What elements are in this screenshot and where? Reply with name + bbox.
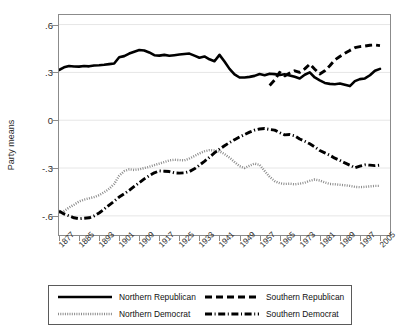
series-line-northern-democrat (59, 150, 380, 213)
legend-item-southern-democrat: Southern Democrat (200, 309, 347, 319)
y-axis-title-text: Party means (6, 120, 16, 171)
series-line-northern-republican (59, 50, 380, 86)
legend-item-northern-democrat: Northern Democrat (53, 309, 200, 319)
legend-label-southern-republican: Southern Republican (266, 292, 344, 302)
legend-label-northern-democrat: Northern Democrat (119, 309, 190, 319)
legend-swatch-dotted (57, 309, 113, 319)
legend-swatch-dashed (204, 292, 260, 302)
plot-svg (59, 15, 390, 235)
chart-figure: Party means .6.30-.3-.6 1877188518931901… (0, 0, 399, 332)
series-line-southern-democrat (59, 129, 380, 219)
plot-area (58, 14, 391, 236)
y-tick-label: -.6 (27, 210, 53, 221)
legend-swatch-solid (57, 292, 113, 302)
legend-item-southern-republican: Southern Republican (200, 292, 347, 302)
y-tick-label: -.3 (27, 163, 53, 174)
y-axis-title: Party means (2, 60, 20, 230)
y-tick-label: .3 (27, 67, 53, 78)
chart-legend: Northern Republican Southern Republican … (48, 285, 352, 325)
legend-label-northern-republican: Northern Republican (119, 292, 196, 302)
data-series-group (59, 45, 380, 219)
gridlines (59, 25, 390, 216)
legend-label-southern-democrat: Southern Democrat (266, 309, 339, 319)
y-tick-label: .6 (27, 19, 53, 30)
legend-swatch-dashdot (204, 309, 260, 319)
y-tick-label: 0 (27, 115, 53, 126)
legend-item-northern-republican: Northern Republican (53, 292, 200, 302)
